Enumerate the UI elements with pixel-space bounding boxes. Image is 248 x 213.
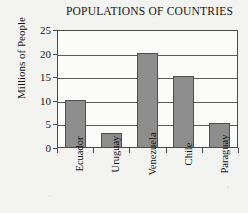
- x-tick-mark-5: [238, 148, 239, 153]
- x-label-slot-uruguay: Uruguay: [93, 148, 129, 213]
- y-tick-mark-25: [53, 30, 57, 31]
- y-tick-mark-20: [53, 54, 57, 55]
- x-axis-label-paraguay: Paraguay: [220, 134, 231, 173]
- x-axis-label-uruguay: Uruguay: [111, 136, 122, 173]
- x-axis-label-ecuador: Ecuador: [75, 137, 86, 172]
- chart-title: POPULATIONS OF COUNTRIES: [57, 5, 242, 17]
- y-tick-label-5: 5: [0, 119, 51, 130]
- x-label-slot-ecuador: Ecuador: [57, 148, 93, 213]
- bar-slot-uruguay: [94, 31, 130, 147]
- y-tick-label-25: 25: [0, 25, 51, 36]
- y-tick-label-10: 10: [0, 95, 51, 106]
- y-tick-mark-5: [53, 124, 57, 125]
- bar-slot-venezuela: [130, 31, 166, 147]
- bar-slot-ecuador: [58, 31, 94, 147]
- y-tick-mark-10: [53, 101, 57, 102]
- x-label-slot-chile: Chile: [166, 148, 202, 213]
- y-tick-label-15: 15: [0, 72, 51, 83]
- bar-chile[interactable]: [173, 76, 194, 147]
- y-tick-label-0: 0: [0, 143, 51, 154]
- x-axis-label-group: EcuadorUruguayVenezuelaChileParaguay: [57, 148, 238, 213]
- bar-slot-chile: [165, 31, 201, 147]
- y-tick-mark-15: [53, 77, 57, 78]
- bar-chart-figure: POPULATIONS OF COUNTRIES Millions of Peo…: [0, 0, 248, 213]
- bar-group: [58, 31, 237, 147]
- x-axis-label-chile: Chile: [184, 143, 195, 166]
- x-label-slot-venezuela: Venezuela: [129, 148, 165, 213]
- y-tick-label-20: 20: [0, 48, 51, 59]
- x-label-slot-paraguay: Paraguay: [202, 148, 238, 213]
- x-axis-label-venezuela: Venezuela: [148, 132, 159, 175]
- bar-slot-paraguay: [201, 31, 237, 147]
- plot-area: [57, 30, 238, 148]
